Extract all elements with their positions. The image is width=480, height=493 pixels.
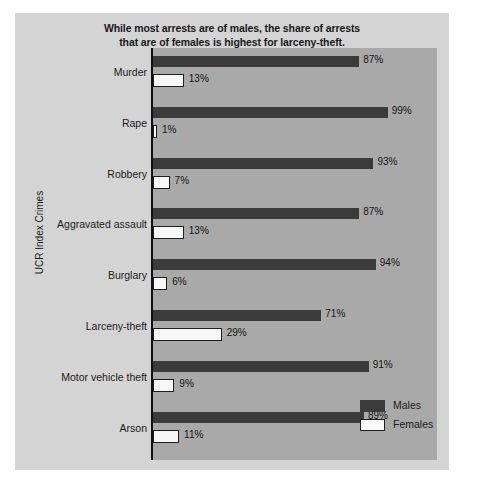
bar-females [153, 328, 222, 341]
category-label: Burglary [108, 269, 147, 281]
chart-title-line-1: While most arrests are of males, the sha… [15, 21, 449, 35]
chart-legend: Males Females [360, 398, 449, 436]
bar-value-females: 7% [175, 175, 189, 186]
category-label: Murder [114, 66, 147, 78]
bar-value-males: 99% [392, 105, 412, 116]
bar-value-females: 29% [227, 327, 247, 338]
bar-females [153, 379, 174, 392]
bar-females [153, 176, 170, 189]
legend-item-females: Females [360, 417, 449, 434]
bar-value-females: 11% [184, 429, 203, 440]
bar-males [153, 107, 388, 118]
bar-females [153, 125, 157, 138]
bar-group: Robbery93%7% [15, 154, 449, 205]
category-label: Motor vehicle theft [61, 371, 147, 383]
legend-item-males: Males [360, 398, 449, 415]
category-label: Larceny-theft [86, 320, 147, 332]
bar-value-females: 9% [179, 378, 193, 389]
bar-females [153, 74, 184, 87]
category-label: Aggravated assault [57, 218, 147, 230]
bar-males [153, 208, 359, 219]
bar-males [153, 412, 364, 423]
bar-group: Rape99%1% [15, 103, 449, 154]
bar-females [153, 277, 167, 290]
bar-value-males: 93% [377, 156, 397, 167]
bar-value-males: 71% [325, 308, 345, 319]
bar-females [153, 430, 179, 443]
bar-group: Larceny-theft71%29% [15, 306, 449, 357]
legend-swatch-females [360, 419, 385, 431]
chart-figure: While most arrests are of males, the sha… [15, 13, 449, 470]
category-label: Robbery [107, 168, 147, 180]
bar-males [153, 310, 321, 321]
bar-value-females: 13% [189, 225, 209, 236]
bar-group: Murder87%13% [15, 52, 449, 103]
bar-females [153, 226, 184, 239]
bar-group: Aggravated assault87%13% [15, 204, 449, 255]
category-label: Arson [120, 422, 147, 434]
bar-value-males: 94% [380, 257, 400, 268]
legend-label-males: Males [393, 399, 421, 411]
bar-value-males: 87% [363, 206, 383, 217]
category-label: Rape [122, 117, 147, 129]
bar-value-males: 91% [373, 359, 393, 370]
bar-group: Burglary94%6% [15, 255, 449, 306]
legend-label-females: Females [393, 418, 433, 430]
bar-males [153, 158, 373, 169]
bar-males [153, 56, 359, 67]
bar-value-females: 6% [172, 276, 186, 287]
bar-males [153, 259, 376, 270]
chart-title: While most arrests are of males, the sha… [15, 21, 449, 49]
bar-males [153, 361, 369, 372]
chart-title-line-2: that are of females is highest for larce… [15, 35, 449, 49]
legend-swatch-males [360, 400, 385, 412]
bar-value-males: 87% [363, 54, 383, 65]
bar-value-females: 1% [162, 124, 176, 135]
bar-value-females: 13% [189, 73, 209, 84]
